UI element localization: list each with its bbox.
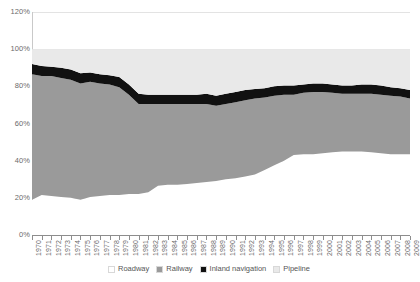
chart-legend: RoadwayRailwayInland navigationPipeline: [0, 263, 418, 275]
legend-label: Inland navigation: [210, 265, 267, 273]
x-axis-tick-label: 2004: [365, 240, 372, 256]
plot-svg: [32, 12, 410, 235]
legend-swatch-icon: [108, 266, 115, 273]
x-axis-tick-label: 1978: [113, 240, 120, 256]
x-axis-labels: 1970197119721973197419751976197719781979…: [32, 240, 410, 262]
x-axis-tick-label: 2006: [384, 240, 391, 256]
x-axis-tick-label: 1988: [210, 240, 217, 256]
x-axis-tick-label: 2003: [355, 240, 362, 256]
x-axis-tick-label: 1981: [142, 240, 149, 256]
legend-label: Railway: [166, 265, 192, 273]
x-axis-tick-label: 1986: [190, 240, 197, 256]
x-axis-tick-label: 1975: [84, 240, 91, 256]
y-axis-tick-label: 60%: [15, 120, 30, 128]
legend-item-railway[interactable]: Railway: [156, 265, 192, 273]
y-axis-tick-label: 20%: [15, 194, 30, 202]
legend-label: Roadway: [118, 265, 149, 273]
x-axis-tick-label: 1980: [132, 240, 139, 256]
x-axis-tick-label: 1972: [55, 240, 62, 256]
x-axis-tick-label: 1970: [35, 240, 42, 256]
y-axis-tick-label: 40%: [15, 157, 30, 165]
legend-item-inland-navigation[interactable]: Inland navigation: [200, 265, 267, 273]
y-axis-labels: 0%20%40%60%80%100%120%: [0, 0, 30, 282]
x-axis-tick-label: 1993: [258, 240, 265, 256]
x-axis-tick-label: 1984: [171, 240, 178, 256]
y-axis-tick-label: 120%: [10, 8, 30, 16]
legend-swatch-icon: [200, 266, 207, 273]
y-axis-tick-label: 100%: [10, 45, 30, 53]
x-axis-tick-label: 1983: [161, 240, 168, 256]
x-axis-tick-label: 2005: [374, 240, 381, 256]
x-axis-tick-label: 1987: [200, 240, 207, 256]
x-axis-tick-label: 2008: [404, 240, 411, 256]
x-axis-tick-label: 2009: [413, 240, 420, 256]
legend-swatch-icon: [156, 266, 163, 273]
x-axis-tick-label: 1979: [122, 240, 129, 256]
x-axis-tick-label: 2002: [345, 240, 352, 256]
y-axis-tick-label: 0%: [19, 231, 30, 239]
x-axis-tick-label: 1971: [45, 240, 52, 256]
x-axis-tick-label: 1989: [219, 240, 226, 256]
legend-label: Pipeline: [283, 265, 310, 273]
legend-swatch-icon: [273, 266, 280, 273]
x-axis-tick-label: 1995: [278, 240, 285, 256]
x-axis-tick-label: 1992: [248, 240, 255, 256]
x-axis-tick-label: 1994: [268, 240, 275, 256]
x-axis-tick-label: 2000: [326, 240, 333, 256]
x-axis-tick-label: 1982: [152, 240, 159, 256]
y-axis-tick-label: 80%: [15, 82, 30, 90]
x-axis-tick-label: 1974: [74, 240, 81, 256]
x-axis-tick-label: 1997: [297, 240, 304, 256]
x-axis-tick-label: 1977: [103, 240, 110, 256]
x-axis-tick-label: 1985: [181, 240, 188, 256]
x-axis-tick-label: 1990: [229, 240, 236, 256]
x-axis-tick-label: 1996: [287, 240, 294, 256]
stacked-area-plot: [32, 12, 410, 235]
x-axis-tick-label: 1998: [307, 240, 314, 256]
x-axis-tick-label: 1973: [64, 240, 71, 256]
legend-item-roadway[interactable]: Roadway: [108, 265, 149, 273]
x-axis-tick-label: 1991: [239, 240, 246, 256]
x-axis-tick-label: 1999: [316, 240, 323, 256]
x-axis-tick-label: 2007: [394, 240, 401, 256]
legend-item-pipeline[interactable]: Pipeline: [273, 265, 310, 273]
x-axis-tick-label: 2001: [336, 240, 343, 256]
x-axis-tick-label: 1976: [93, 240, 100, 256]
